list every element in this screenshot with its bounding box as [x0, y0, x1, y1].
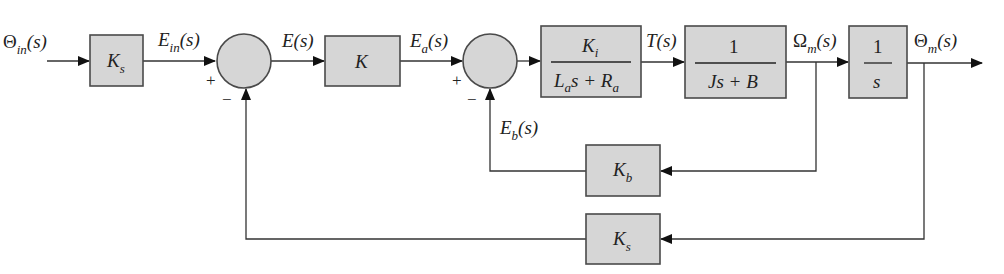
block-armature: Ki Las + Ra — [541, 26, 641, 97]
block-integrator: 1 s — [849, 26, 907, 98]
summing-junction-1: + − — [206, 34, 271, 109]
block-back-emf: Kb — [586, 145, 660, 196]
block-mechanical: 1 Js + B — [685, 26, 786, 98]
wire-fb-out — [246, 89, 586, 239]
label-e-in: Ein(s) — [157, 29, 200, 55]
label-e: E(s) — [281, 30, 314, 52]
block-amplifier: K — [325, 36, 400, 86]
label-e-a: Ea(s) — [409, 30, 448, 56]
summing-junction-2: + − — [452, 34, 517, 109]
svg-text:Js + B: Js + B — [708, 71, 758, 92]
svg-text:1: 1 — [873, 36, 883, 57]
label-torque: T(s) — [646, 30, 677, 52]
block-diagram: Ks K Ki Las + Ra 1 Js + B 1 s Kb Ks + − — [0, 0, 1004, 274]
svg-text:−: − — [467, 90, 477, 109]
block-sensor-fb: Ks — [586, 214, 660, 264]
svg-text:1: 1 — [729, 36, 739, 57]
label-omega: Ωm(s) — [793, 30, 837, 56]
label-e-b: Eb(s) — [499, 117, 538, 143]
svg-text:+: + — [452, 71, 462, 90]
svg-text:s: s — [873, 71, 880, 92]
svg-text:K: K — [354, 51, 369, 72]
block-sensor-in: Ks — [90, 35, 143, 86]
label-theta-in: Θin(s) — [3, 31, 47, 57]
svg-text:−: − — [222, 90, 232, 109]
svg-text:+: + — [206, 71, 216, 90]
label-theta-m: Θm(s) — [914, 30, 957, 56]
